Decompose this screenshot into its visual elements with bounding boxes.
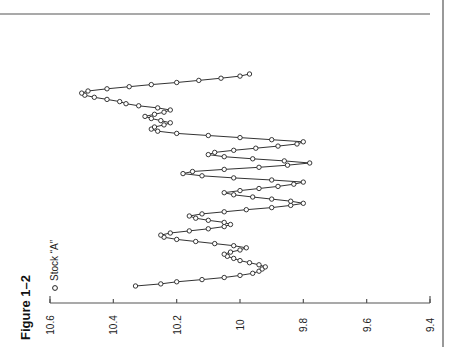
data-point-marker (270, 205, 274, 209)
data-point-marker (238, 135, 242, 139)
data-point-marker (257, 165, 261, 169)
data-point-marker (162, 123, 166, 127)
data-point-marker (232, 193, 236, 197)
data-point-marker (213, 241, 217, 245)
data-point-marker (222, 191, 226, 195)
tick-label: 10.2 (172, 315, 183, 335)
data-point-marker (257, 263, 261, 267)
series-line (82, 74, 310, 286)
data-point-marker (187, 229, 191, 233)
data-point-marker (206, 218, 210, 222)
legend-label: Stock “A” (49, 240, 60, 281)
data-point-marker (206, 133, 210, 137)
data-point-marker (301, 201, 305, 205)
data-point-marker (187, 214, 191, 218)
data-point-marker (137, 104, 141, 108)
tick-label: 9.8 (298, 318, 309, 332)
data-point-marker (301, 180, 305, 184)
data-point-marker (152, 112, 156, 116)
data-point-marker (257, 186, 261, 190)
data-point-marker (80, 91, 84, 95)
data-point-marker (276, 184, 280, 188)
data-point-marker (270, 178, 274, 182)
data-point-marker (238, 273, 242, 277)
data-point-marker (190, 169, 194, 173)
data-point-marker (175, 131, 179, 135)
data-point-marker (194, 216, 198, 220)
data-point-marker (118, 99, 122, 103)
data-point-marker (159, 118, 163, 122)
data-point-marker (232, 244, 236, 248)
data-point-marker (238, 188, 242, 192)
data-point-marker (270, 197, 274, 201)
data-point-marker (200, 212, 204, 216)
data-point-marker (244, 208, 248, 212)
data-point-marker (92, 95, 96, 99)
data-point-marker (127, 85, 131, 89)
data-point-marker (222, 220, 226, 224)
data-point-marker (276, 144, 280, 148)
data-point-marker (244, 246, 248, 250)
data-point-marker (308, 161, 312, 165)
tick-label: 10.6 (45, 315, 56, 335)
data-point-marker (292, 182, 296, 186)
series-stock-a (80, 72, 312, 288)
data-point-marker (251, 195, 255, 199)
data-point-marker (222, 252, 226, 256)
data-point-marker (213, 150, 217, 154)
data-point-marker (285, 163, 289, 167)
data-point-marker (232, 148, 236, 152)
data-point-marker (159, 233, 163, 237)
data-point-marker (228, 222, 232, 226)
data-point-marker (254, 146, 258, 150)
data-point-marker (206, 152, 210, 156)
data-point-marker (197, 78, 201, 82)
data-point-marker (301, 140, 305, 144)
data-point-marker (105, 87, 109, 91)
value-axis-ticks: 10.610.410.2109.89.69.4 (45, 299, 436, 335)
tick-label: 9.6 (362, 318, 373, 332)
data-point-marker (194, 239, 198, 243)
data-point-marker (219, 76, 223, 80)
data-point-marker (238, 74, 242, 78)
data-point-marker (156, 106, 160, 110)
data-point-marker (175, 280, 179, 284)
data-point-marker (295, 142, 299, 146)
data-point-marker (133, 284, 137, 288)
tick-label: 9.4 (425, 318, 436, 332)
data-point-marker (149, 82, 153, 86)
data-point-marker (232, 256, 236, 260)
data-point-marker (162, 110, 166, 114)
data-point-marker (181, 171, 185, 175)
data-point-marker (222, 275, 226, 279)
data-point-marker (175, 237, 179, 241)
data-point-marker (175, 80, 179, 84)
data-point-marker (168, 231, 172, 235)
data-point-marker (270, 138, 274, 142)
data-point-marker (228, 250, 232, 254)
data-point-marker (222, 224, 226, 228)
data-point-marker (124, 102, 128, 106)
data-point-marker (168, 108, 172, 112)
data-point-marker (156, 129, 160, 133)
data-point-marker (222, 210, 226, 214)
data-point-marker (238, 258, 242, 262)
data-point-marker (222, 167, 226, 171)
data-point-marker (282, 159, 286, 163)
data-point-marker (263, 265, 267, 269)
data-point-marker (289, 199, 293, 203)
data-point-marker (206, 227, 210, 231)
data-point-marker (238, 248, 242, 252)
data-point-marker (222, 155, 226, 159)
data-point-marker (251, 157, 255, 161)
data-point-marker (143, 114, 147, 118)
legend: Stock “A” (49, 240, 60, 291)
data-point-marker (168, 121, 172, 125)
figure-title: Figure 1–2 (18, 275, 33, 340)
data-point-marker (105, 97, 109, 101)
data-point-marker (232, 176, 236, 180)
data-point-marker (251, 271, 255, 275)
data-point-marker (149, 116, 153, 120)
data-point-marker (152, 125, 156, 129)
data-point-marker (159, 282, 163, 286)
